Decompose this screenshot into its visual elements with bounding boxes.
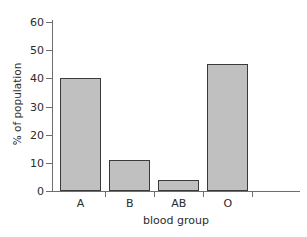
y-tick-mark	[46, 135, 52, 136]
y-tick-mark	[46, 191, 52, 192]
y-axis-line	[52, 20, 53, 192]
y-tick-label: 60	[30, 17, 44, 28]
y-tick-label: 10	[30, 158, 44, 169]
x-axis-line	[52, 191, 300, 192]
y-tick-label: 40	[30, 73, 44, 84]
x-axis-title: blood group	[52, 214, 300, 227]
x-tick-mark	[105, 192, 106, 197]
y-tick-mark	[46, 50, 52, 51]
x-tick-mark	[203, 192, 204, 197]
x-tick-mark	[154, 192, 155, 197]
bar-chart: 0102030405060 ABABO % of population bloo…	[0, 0, 307, 237]
y-tick-mark	[46, 22, 52, 23]
y-tick-mark	[46, 107, 52, 108]
bar	[60, 78, 101, 191]
y-tick-mark	[46, 163, 52, 164]
bar	[109, 160, 150, 191]
x-tick-mark	[252, 192, 253, 197]
bar	[158, 180, 199, 191]
y-tick-label: 30	[30, 102, 44, 113]
y-tick-label: 50	[30, 45, 44, 56]
bar	[207, 64, 248, 191]
y-tick-label: 20	[30, 130, 44, 141]
y-axis-title: % of population	[11, 61, 23, 147]
y-tick-label: 0	[37, 186, 44, 197]
y-tick-mark	[46, 78, 52, 79]
x-tick-label: O	[198, 198, 258, 209]
